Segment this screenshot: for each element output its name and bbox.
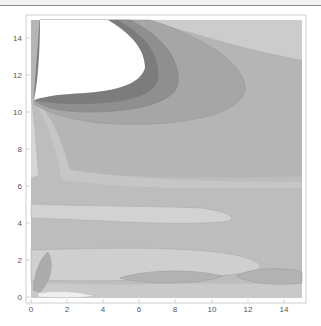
svg-text:0: 0 — [29, 305, 34, 314]
y-axis-labels: 0 2 4 6 8 10 12 14 — [13, 34, 22, 302]
svg-text:10: 10 — [208, 305, 217, 314]
svg-text:14: 14 — [280, 305, 289, 314]
svg-text:4: 4 — [18, 219, 23, 228]
contour-plot: 0 2 4 6 8 10 12 14 0 2 4 6 8 10 12 14 — [0, 0, 321, 326]
svg-text:2: 2 — [18, 256, 23, 265]
svg-text:12: 12 — [13, 71, 22, 80]
svg-text:6: 6 — [18, 182, 23, 191]
svg-text:14: 14 — [13, 34, 22, 43]
svg-text:8: 8 — [173, 305, 178, 314]
svg-text:8: 8 — [18, 145, 23, 154]
svg-text:2: 2 — [65, 305, 70, 314]
svg-text:0: 0 — [18, 293, 23, 302]
x-axis-labels: 0 2 4 6 8 10 12 14 — [29, 305, 289, 314]
svg-text:12: 12 — [244, 305, 253, 314]
svg-text:4: 4 — [101, 305, 106, 314]
svg-text:10: 10 — [13, 108, 22, 117]
svg-text:6: 6 — [137, 305, 142, 314]
